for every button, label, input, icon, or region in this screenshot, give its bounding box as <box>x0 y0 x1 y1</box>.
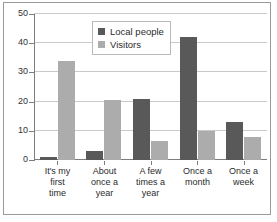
bar-local-people-1 <box>86 151 103 160</box>
bar-visitors-4 <box>244 137 261 160</box>
x-axis-category-label: It's my first time <box>34 166 81 199</box>
legend-label-visitors: Visitors <box>110 39 141 50</box>
y-axis-tick-label: 30 <box>4 66 28 76</box>
chart-legend: Local people Visitors <box>92 21 171 55</box>
y-axis-tick-label: 20 <box>4 96 28 106</box>
x-tick-0 <box>57 161 58 165</box>
legend-swatch-icon-local-people <box>98 28 105 35</box>
y-tick-0 <box>29 160 34 161</box>
x-axis-category-label: Once a month <box>174 166 221 188</box>
y-axis-tick-label: 50 <box>4 8 28 18</box>
y-axis-tick-label: 0 <box>4 154 28 164</box>
x-tick-1 <box>104 161 105 165</box>
bar-local-people-0 <box>40 157 57 160</box>
bar-local-people-4 <box>226 122 243 160</box>
y-tick-50 <box>29 14 34 15</box>
y-axis-line <box>34 14 35 161</box>
bar-visitors-0 <box>58 61 75 160</box>
gridline-50 <box>34 13 267 14</box>
legend-item-visitors: Visitors <box>98 38 164 51</box>
x-axis-category-label: Once a week <box>220 166 267 188</box>
legend-item-local-people: Local people <box>98 25 164 38</box>
y-axis-tick-label: 10 <box>4 125 28 135</box>
x-tick-3 <box>197 161 198 165</box>
bar-local-people-3 <box>180 37 197 160</box>
x-axis-category-label: About once a year <box>81 166 128 199</box>
bar-visitors-1 <box>104 100 121 160</box>
y-tick-10 <box>29 131 34 132</box>
legend-label-local-people: Local people <box>110 26 164 37</box>
bar-visitors-3 <box>198 131 215 160</box>
y-tick-40 <box>29 43 34 44</box>
x-axis-category-label: A few times a year <box>127 166 174 199</box>
y-tick-30 <box>29 72 34 73</box>
y-axis-tick-label: 40 <box>4 37 28 47</box>
bar-visitors-2 <box>151 141 168 160</box>
x-tick-4 <box>244 161 245 165</box>
x-tick-2 <box>151 161 152 165</box>
bar-local-people-2 <box>133 99 150 160</box>
chart-figure: 01020304050 It's my first timeAbout once… <box>3 2 271 215</box>
y-tick-20 <box>29 102 34 103</box>
legend-swatch-icon-visitors <box>98 41 105 48</box>
